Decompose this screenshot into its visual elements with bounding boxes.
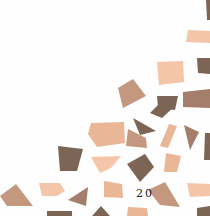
mosaic-tile: [92, 206, 110, 216]
mosaic-tile: [58, 146, 83, 171]
mosaic-tile: [0, 184, 33, 206]
mosaic-tile: [47, 211, 72, 216]
mosaic-illustration: [0, 0, 210, 216]
mosaic-tile: [160, 124, 177, 148]
mosaic-tile: [127, 207, 148, 216]
mosaic-tile: [204, 133, 210, 160]
mosaic-tile: [68, 187, 88, 206]
book-page: 20: [0, 0, 210, 216]
mosaic-tile: [157, 61, 184, 85]
mosaic-tile: [91, 156, 121, 173]
mosaic-tile: [183, 89, 210, 108]
mosaic-tile: [133, 118, 156, 135]
mosaic-tile: [118, 79, 146, 108]
mosaic-tile: [127, 154, 154, 182]
mosaic-tile: [88, 122, 125, 147]
mosaic-tile: [197, 206, 210, 216]
mosaic-tile: [164, 153, 181, 172]
mosaic-tile: [187, 183, 210, 197]
mosaic-tile: [104, 181, 123, 198]
mosaic-tile: [206, 0, 210, 20]
mosaic-tile: [39, 183, 65, 196]
mosaic-tile: [184, 125, 199, 150]
mosaic-tile: [197, 58, 210, 74]
page-number: 20: [136, 187, 154, 200]
mosaic-tile: [186, 30, 210, 43]
